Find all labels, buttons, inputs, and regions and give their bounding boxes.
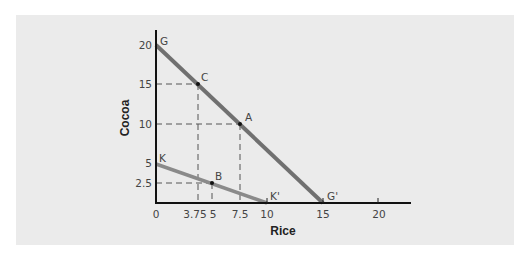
y-tick-5: 5 (145, 157, 152, 169)
label-b: B (215, 170, 222, 182)
ppf-chart: G C A K B K' G' 20 15 10 5 2.5 0 3.75 5 … (0, 0, 528, 256)
x-tick-10: 10 (260, 208, 273, 220)
guide-lines (156, 84, 240, 203)
x-tick-0: 0 (153, 208, 160, 220)
y-tick-15: 15 (139, 78, 152, 90)
y-axis-label: Cocoa (118, 99, 132, 136)
point-c (196, 82, 200, 86)
x-tick-3-75: 3.75 (183, 208, 206, 220)
x-tick-15: 15 (316, 208, 329, 220)
label-c: C (201, 71, 208, 83)
label-g-prime: G' (327, 190, 338, 202)
x-tick-20: 20 (372, 208, 385, 220)
label-k: K (159, 152, 167, 164)
label-g: G (160, 35, 168, 47)
y-tick-10: 10 (139, 118, 152, 130)
x-axis-label: Rice (270, 224, 296, 238)
label-k-prime: K' (270, 190, 280, 202)
label-a: A (245, 111, 253, 123)
y-tick-20: 20 (139, 39, 152, 51)
point-b (210, 181, 214, 185)
point-a (238, 122, 242, 126)
y-tick-2-5: 2.5 (135, 177, 152, 189)
x-tick-7-5: 7.5 (232, 208, 249, 220)
x-tick-5: 5 (210, 208, 217, 220)
